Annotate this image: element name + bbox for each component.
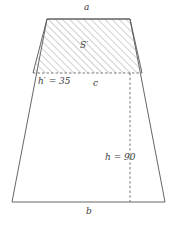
label-full-height: h = 90	[105, 153, 136, 162]
trapezoid-diagram-svg	[0, 0, 177, 227]
label-hatched-area-s-prime: S′	[80, 41, 88, 50]
label-small-height: h′ = 35	[38, 77, 71, 86]
label-mid-side-c: c	[93, 79, 98, 88]
label-bottom-side-b: b	[86, 207, 92, 216]
geometry-figure: a S′ h′ = 35 c h = 90 b	[0, 0, 177, 227]
label-top-side-a: a	[84, 3, 89, 12]
